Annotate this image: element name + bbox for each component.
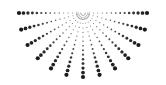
sunburst-graphic bbox=[0, 0, 166, 85]
sunburst-dots-icon bbox=[0, 0, 166, 85]
